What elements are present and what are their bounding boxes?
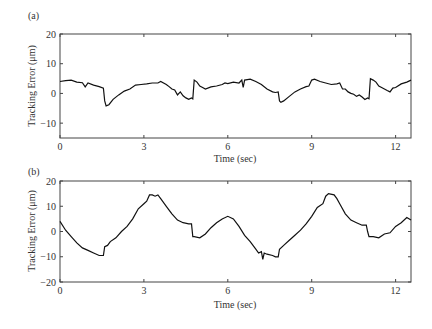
x-tick-label: 12 bbox=[391, 285, 401, 296]
plot-frame-b bbox=[60, 181, 411, 282]
panel-b: (b) 036912−20−1001020 Tracking Error (μm… bbox=[26, 166, 411, 311]
trace-line-a bbox=[60, 79, 411, 106]
y-tick-label: −10 bbox=[40, 118, 56, 129]
plot-frame-a bbox=[60, 34, 411, 138]
y-tick-label: 10 bbox=[46, 58, 56, 69]
x-tick-label: 3 bbox=[141, 285, 146, 296]
x-axis-label-a: Time (sec) bbox=[214, 153, 257, 165]
y-tick-label: 0 bbox=[51, 88, 56, 99]
panel-label-a: (a) bbox=[28, 10, 39, 22]
x-tick-label: 3 bbox=[141, 141, 146, 152]
trace-line-b bbox=[60, 194, 411, 260]
x-tick-label: 12 bbox=[391, 141, 401, 152]
y-tick-label: 20 bbox=[46, 29, 56, 40]
x-axis-label-b: Time (sec) bbox=[214, 299, 257, 311]
y-axis-label-a: Tracking Error (μm) bbox=[26, 45, 38, 127]
y-tick-label: 0 bbox=[51, 226, 56, 237]
x-tick-label: 9 bbox=[309, 285, 314, 296]
y-axis-label-b: Tracking Error (μm) bbox=[26, 190, 38, 272]
panel-label-b: (b) bbox=[28, 166, 40, 178]
ticks-b: 036912−20−1001020 bbox=[40, 176, 411, 297]
y-tick-label: 20 bbox=[46, 176, 56, 187]
chart-figure: (a) 036912−1001020 Tracking Error (μm) T… bbox=[0, 0, 432, 329]
x-tick-label: 0 bbox=[58, 141, 63, 152]
y-tick-label: 10 bbox=[46, 201, 56, 212]
y-tick-label: −10 bbox=[40, 251, 56, 262]
x-tick-label: 6 bbox=[225, 285, 230, 296]
panel-a: (a) 036912−1001020 Tracking Error (μm) T… bbox=[26, 10, 411, 165]
y-tick-label: −20 bbox=[40, 277, 56, 288]
x-tick-label: 6 bbox=[225, 141, 230, 152]
x-tick-label: 0 bbox=[58, 285, 63, 296]
x-tick-label: 9 bbox=[309, 141, 314, 152]
ticks-a: 036912−1001020 bbox=[40, 29, 411, 153]
